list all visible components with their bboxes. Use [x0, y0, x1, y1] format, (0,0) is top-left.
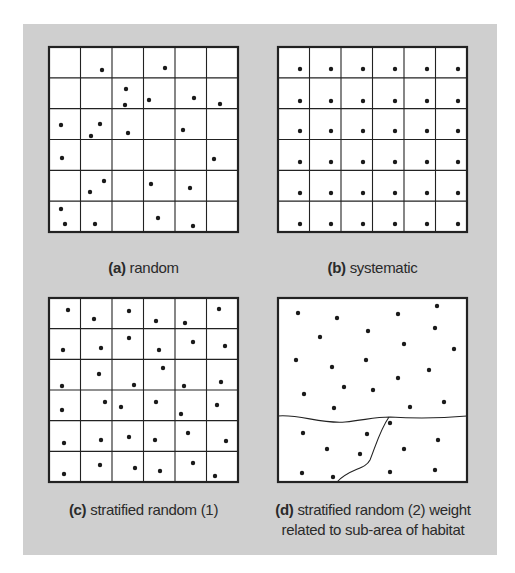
- sample-point: [127, 336, 131, 340]
- sample-point: [298, 160, 302, 164]
- sample-point: [59, 123, 63, 127]
- sample-point: [361, 191, 365, 195]
- sample-point: [60, 156, 64, 160]
- sample-point: [93, 222, 97, 226]
- sample-point: [388, 470, 392, 474]
- sample-point: [186, 431, 190, 435]
- sample-point: [163, 66, 167, 70]
- caption-b-text: systematic: [346, 259, 418, 276]
- sample-point: [329, 222, 333, 226]
- sample-point: [361, 160, 365, 164]
- sample-point: [154, 319, 158, 323]
- sample-point: [191, 340, 195, 344]
- sample-point: [89, 134, 93, 138]
- sample-point: [408, 405, 412, 409]
- sample-point: [329, 99, 333, 103]
- sample-point: [402, 447, 406, 451]
- sample-point: [393, 160, 397, 164]
- sample-point: [98, 122, 102, 126]
- caption-a-letter: (a): [108, 259, 125, 276]
- sample-point: [102, 179, 106, 183]
- sample-point: [60, 408, 64, 412]
- sample-point: [358, 452, 362, 456]
- sample-point: [318, 335, 322, 339]
- sample-point: [300, 471, 304, 475]
- sample-point: [213, 474, 217, 478]
- sample-point: [298, 222, 302, 226]
- sample-point: [123, 103, 127, 107]
- sample-point: [335, 316, 339, 320]
- sample-point: [60, 384, 64, 388]
- sample-point: [62, 441, 66, 445]
- sample-point: [132, 383, 136, 387]
- sample-point: [215, 403, 219, 407]
- sample-point: [161, 366, 165, 370]
- sample-point: [329, 67, 333, 71]
- sample-point: [456, 67, 460, 71]
- caption-c-text: stratified random (1): [86, 501, 218, 518]
- sample-point: [154, 400, 158, 404]
- sample-point: [361, 129, 365, 133]
- sample-point: [192, 96, 196, 100]
- sample-point: [425, 129, 429, 133]
- sample-point: [99, 438, 103, 442]
- sample-point: [396, 312, 400, 316]
- sample-point: [188, 186, 192, 190]
- sample-point: [436, 438, 440, 442]
- sample-point: [393, 222, 397, 226]
- sample-point: [332, 406, 336, 410]
- panel-random-sampling: [49, 47, 238, 232]
- sample-point: [435, 304, 439, 308]
- sample-point: [126, 131, 130, 135]
- sample-point: [393, 191, 397, 195]
- caption-d-line1: (d) stratified random (2) weight: [250, 500, 496, 520]
- caption-d-letter: (d): [275, 501, 293, 518]
- sample-point: [302, 392, 306, 396]
- sample-point: [442, 400, 446, 404]
- sample-point: [452, 347, 456, 351]
- sample-point: [62, 472, 66, 476]
- sample-point: [456, 222, 460, 226]
- sample-point: [158, 469, 162, 473]
- sample-point: [296, 311, 300, 315]
- sample-point: [425, 191, 429, 195]
- sample-point: [224, 439, 228, 443]
- sample-point: [364, 358, 368, 362]
- caption-a-text: random: [126, 259, 179, 276]
- caption-d: (d) stratified random (2) weight related…: [250, 500, 496, 540]
- caption-b-letter: (b): [328, 259, 346, 276]
- sample-point: [427, 368, 431, 372]
- sample-point: [119, 405, 123, 409]
- sample-point: [366, 329, 370, 333]
- sample-point: [217, 307, 221, 311]
- sample-point: [99, 346, 103, 350]
- sample-point: [371, 388, 375, 392]
- sample-point: [127, 435, 131, 439]
- sample-point: [191, 224, 195, 228]
- sample-point: [147, 98, 151, 102]
- sample-point: [149, 182, 153, 186]
- sample-point: [365, 432, 369, 436]
- sample-point: [456, 160, 460, 164]
- sample-point: [329, 160, 333, 164]
- sample-point: [330, 365, 334, 369]
- sample-point: [100, 68, 104, 72]
- caption-a: (a) random: [49, 258, 238, 278]
- sample-point: [298, 67, 302, 71]
- sample-point: [179, 412, 183, 416]
- sample-point: [219, 380, 223, 384]
- sample-point: [361, 99, 365, 103]
- sample-point: [298, 191, 302, 195]
- sample-point: [59, 207, 63, 211]
- sample-point: [433, 468, 437, 472]
- sample-point: [425, 222, 429, 226]
- sample-point: [393, 129, 397, 133]
- sample-point: [127, 309, 131, 313]
- sample-point: [456, 129, 460, 133]
- sample-point: [388, 421, 392, 425]
- sample-point: [331, 475, 335, 479]
- sample-point: [301, 431, 305, 435]
- sample-point: [133, 466, 137, 470]
- panel-stratified-random-2: [278, 298, 467, 482]
- panel-stratified-random-1: [49, 298, 238, 482]
